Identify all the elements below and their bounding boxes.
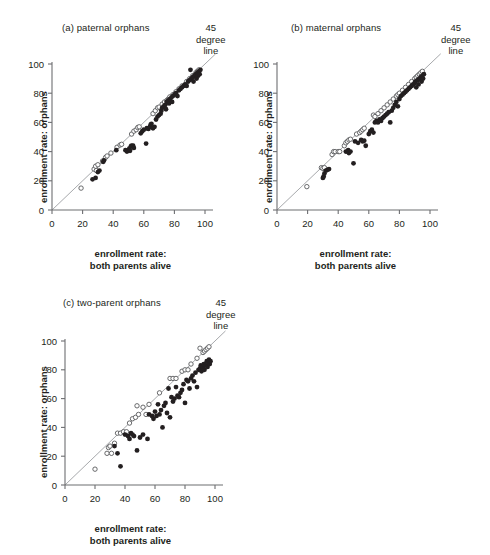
data-point-filled bbox=[363, 143, 368, 148]
data-point-open bbox=[109, 451, 113, 455]
data-point-open bbox=[79, 186, 83, 190]
data-point-filled bbox=[180, 388, 185, 393]
panel-a-plot: 020406080100020406080100 bbox=[0, 0, 245, 280]
data-point-open bbox=[195, 356, 199, 360]
data-point-filled bbox=[183, 401, 188, 406]
svg-text:60: 60 bbox=[364, 218, 375, 229]
panel-a-xlabel-line1: enrollment rate: bbox=[53, 248, 208, 260]
panel-b-y-axis-label: enrollment rate: orphans bbox=[263, 91, 274, 203]
data-point-filled bbox=[166, 386, 171, 391]
data-point-open bbox=[105, 451, 109, 455]
data-point-filled bbox=[421, 76, 426, 81]
data-point-filled bbox=[102, 158, 107, 163]
data-point-filled bbox=[131, 146, 136, 151]
svg-text:0: 0 bbox=[62, 493, 67, 504]
data-point-filled bbox=[168, 415, 173, 420]
data-point-filled bbox=[114, 148, 119, 153]
panel-a-xlabel-line2: both parents alive bbox=[53, 260, 208, 272]
data-point-open bbox=[198, 346, 202, 350]
data-point-open bbox=[96, 163, 100, 167]
panel-b: (b) maternal orphans 45 degree line 0204… bbox=[245, 0, 490, 280]
data-point-open bbox=[119, 142, 123, 146]
panel-c-y-axis-label: enrollment rate: orphans bbox=[38, 366, 49, 478]
data-point-filled bbox=[132, 434, 137, 439]
data-point-filled bbox=[181, 382, 186, 387]
data-point-filled bbox=[145, 437, 150, 442]
figure-container: (a) paternal orphans 45 degree line 0204… bbox=[0, 0, 490, 555]
svg-text:100: 100 bbox=[197, 218, 213, 229]
data-point-filled bbox=[165, 411, 170, 416]
svg-text:60: 60 bbox=[139, 218, 150, 229]
data-point-open bbox=[136, 412, 140, 416]
data-point-filled bbox=[184, 84, 189, 89]
data-point-open bbox=[137, 125, 141, 129]
svg-text:20: 20 bbox=[90, 493, 101, 504]
panel-c-xlabel-line2: both parents alive bbox=[53, 535, 208, 547]
panel-c-xlabel-line1: enrollment rate: bbox=[53, 523, 208, 535]
data-point-filled bbox=[388, 120, 393, 125]
svg-text:20: 20 bbox=[302, 218, 313, 229]
data-point-open bbox=[207, 345, 211, 349]
data-point-filled bbox=[362, 138, 367, 143]
data-point-filled bbox=[153, 409, 158, 414]
data-point-filled bbox=[187, 386, 192, 391]
data-point-open bbox=[135, 404, 139, 408]
svg-text:40: 40 bbox=[108, 218, 119, 229]
panel-a: (a) paternal orphans 45 degree line 0204… bbox=[0, 0, 245, 280]
panel-b-xlabel-line1: enrollment rate: bbox=[278, 248, 433, 260]
data-point-filled bbox=[195, 385, 200, 390]
data-point-open bbox=[174, 376, 178, 380]
data-point-filled bbox=[141, 432, 146, 437]
svg-text:0: 0 bbox=[49, 218, 54, 229]
svg-text:100: 100 bbox=[41, 336, 57, 347]
data-point-open bbox=[141, 405, 145, 409]
data-point-filled bbox=[208, 359, 213, 364]
data-point-filled bbox=[198, 67, 203, 72]
panel-b-plot: 020406080100020406080100 bbox=[245, 0, 490, 280]
data-point-open bbox=[362, 126, 366, 130]
data-point-open bbox=[186, 368, 190, 372]
data-point-filled bbox=[127, 437, 132, 442]
data-point-open bbox=[108, 444, 112, 448]
data-point-filled bbox=[160, 425, 165, 430]
data-point-filled bbox=[135, 448, 140, 453]
data-point-filled bbox=[93, 175, 98, 180]
data-point-open bbox=[157, 391, 161, 395]
data-point-open bbox=[127, 421, 131, 425]
data-point-filled bbox=[371, 130, 376, 135]
svg-text:100: 100 bbox=[207, 493, 223, 504]
svg-text:100: 100 bbox=[253, 59, 269, 70]
svg-text:0: 0 bbox=[264, 205, 269, 216]
panel-b-x-axis-label: enrollment rate: both parents alive bbox=[278, 248, 433, 272]
panel-c-x-axis-label: enrollment rate: both parents alive bbox=[53, 523, 208, 547]
data-point-open bbox=[93, 467, 97, 471]
data-point-filled bbox=[164, 107, 169, 112]
svg-text:100: 100 bbox=[422, 218, 438, 229]
data-point-filled bbox=[163, 401, 168, 406]
svg-text:20: 20 bbox=[77, 218, 88, 229]
svg-text:0: 0 bbox=[52, 480, 57, 491]
panel-a-x-axis-label: enrollment rate: both parents alive bbox=[53, 248, 208, 272]
data-point-filled bbox=[128, 148, 133, 153]
data-point-filled bbox=[97, 168, 102, 173]
svg-text:100: 100 bbox=[28, 59, 44, 70]
data-point-filled bbox=[197, 72, 202, 77]
svg-text:40: 40 bbox=[333, 218, 344, 229]
data-point-filled bbox=[152, 124, 157, 129]
data-point-filled bbox=[177, 395, 182, 400]
data-point-open bbox=[348, 137, 352, 141]
data-point-filled bbox=[327, 167, 332, 172]
panel-a-y-axis-label: enrollment rate: orphans bbox=[38, 91, 49, 203]
svg-text:80: 80 bbox=[180, 493, 191, 504]
data-point-open bbox=[105, 154, 109, 158]
data-point-filled bbox=[159, 408, 164, 413]
data-point-filled bbox=[144, 141, 149, 146]
data-point-filled bbox=[175, 94, 180, 99]
data-point-filled bbox=[395, 104, 400, 109]
data-point-filled bbox=[112, 444, 117, 449]
data-point-open bbox=[338, 149, 342, 153]
svg-text:80: 80 bbox=[169, 218, 180, 229]
data-point-filled bbox=[156, 402, 161, 407]
data-point-filled bbox=[421, 72, 426, 77]
data-point-open bbox=[109, 151, 113, 155]
